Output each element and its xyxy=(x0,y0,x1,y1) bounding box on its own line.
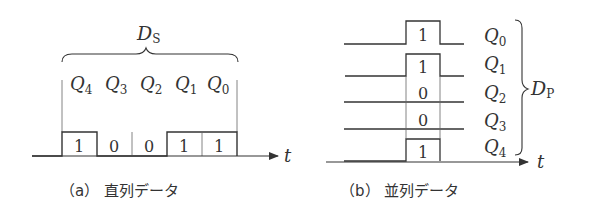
parallel-waveform-q1 xyxy=(345,54,464,76)
parallel-group-label: DP xyxy=(530,77,554,101)
serial-bit-value: 1 xyxy=(179,137,189,156)
serial-brace xyxy=(62,48,238,62)
parallel-label-q1: Q1 xyxy=(484,53,506,77)
serial-bit-value: 1 xyxy=(214,137,224,156)
serial-bit-value: 0 xyxy=(144,137,154,156)
serial-label-q0: Q0 xyxy=(207,73,229,97)
parallel-bit-value: 0 xyxy=(418,84,428,103)
serial-caption: （a） 直列データ xyxy=(60,182,179,200)
parallel-bit-labels: Q0 Q1 Q2 Q3 Q4 xyxy=(484,25,507,160)
parallel-caption: （b） 並列データ xyxy=(340,182,459,200)
parallel-bit-value: 0 xyxy=(418,111,428,130)
parallel-axis-label: t xyxy=(537,151,545,172)
parallel-label-q3: Q3 xyxy=(484,110,506,134)
parallel-label-q0: Q0 xyxy=(484,25,506,49)
serial-data-panel: DS Q4 Q3 Q2 Q1 Q0 t 1 0 0 1 1 （a） 直列データ xyxy=(32,22,292,200)
parallel-bit-values: 1 1 0 0 1 xyxy=(418,26,428,162)
parallel-brace xyxy=(515,20,528,155)
serial-waveform xyxy=(32,132,237,156)
serial-label-q4: Q4 xyxy=(70,73,93,97)
serial-bit-value: 0 xyxy=(109,137,119,156)
serial-label-q3: Q3 xyxy=(105,73,127,97)
parallel-data-panel: t 1 1 0 0 1 Q0 Q1 Q2 Q3 Q4 DP （b） 並列データ xyxy=(326,20,554,200)
serial-label-q2: Q2 xyxy=(140,73,162,97)
serial-bit-labels: Q4 Q3 Q2 Q1 Q0 xyxy=(70,73,229,97)
serial-parallel-diagram: DS Q4 Q3 Q2 Q1 Q0 t 1 0 0 1 1 （a） 直列データ xyxy=(0,0,589,214)
serial-axis-label: t xyxy=(284,145,292,166)
serial-bit-value: 1 xyxy=(74,137,84,156)
parallel-bit-value: 1 xyxy=(418,58,428,77)
serial-group-label: DS xyxy=(136,22,160,46)
parallel-bit-value: 1 xyxy=(418,143,428,162)
parallel-bit-value: 1 xyxy=(418,26,428,45)
serial-label-q1: Q1 xyxy=(175,73,197,97)
parallel-label-q2: Q2 xyxy=(484,82,506,106)
parallel-label-q4: Q4 xyxy=(484,136,507,160)
parallel-waveform-q0 xyxy=(344,21,464,44)
